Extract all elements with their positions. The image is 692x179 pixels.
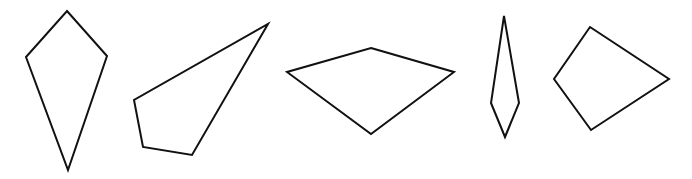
shape-kite-horizontal xyxy=(287,48,454,134)
shape-narrow-kite xyxy=(491,16,519,137)
shape-irregular-quadrilateral xyxy=(134,24,268,155)
shape-kite-right xyxy=(554,27,669,130)
shapes-diagram xyxy=(0,0,692,179)
shape-kite-vertical xyxy=(26,11,107,170)
